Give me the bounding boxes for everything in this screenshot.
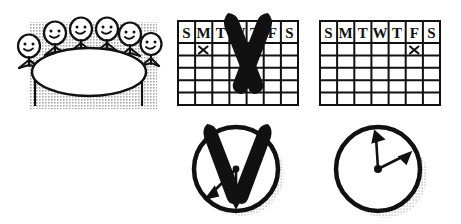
day-header-3: W	[373, 25, 388, 41]
day-header-1: M	[197, 25, 211, 41]
day-header-4: T	[392, 25, 402, 41]
day-header-0: S	[182, 25, 190, 41]
illustration-canvas: S M T W T F S	[0, 0, 461, 224]
day-header-2: T	[358, 25, 368, 41]
day-header-0: S	[324, 25, 332, 41]
meeting-group-panel	[18, 18, 162, 110]
day-header-2: T	[216, 25, 226, 41]
day-header-5: F	[410, 25, 419, 41]
calendar-crossed: S M T W T F S	[178, 13, 298, 105]
clock-crossed	[194, 124, 284, 216]
day-header-1: M	[339, 25, 353, 41]
day-header-6: S	[285, 25, 293, 41]
calendar-accepted: S M T W T F S	[320, 21, 440, 105]
scene-svg: S M T W T F S	[0, 0, 461, 224]
day-header-6: S	[427, 25, 435, 41]
table-top	[32, 48, 146, 96]
calendar-accepted-headers: S M T W T F S	[324, 25, 435, 41]
